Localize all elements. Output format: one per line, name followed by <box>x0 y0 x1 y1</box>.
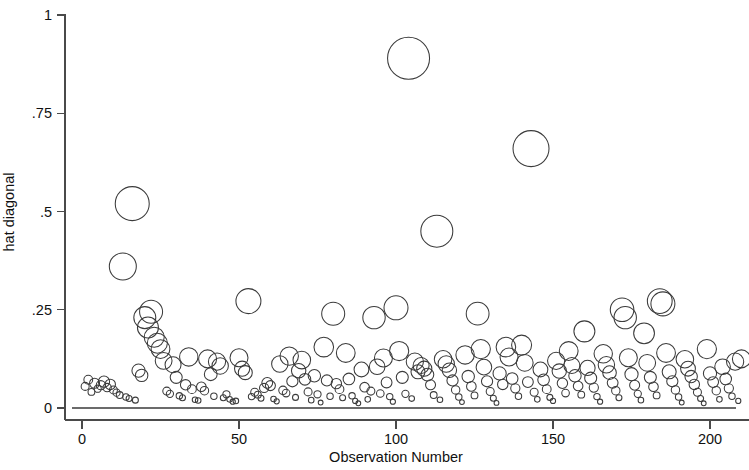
x-tick-label: 0 <box>78 431 86 447</box>
x-tick-label: 50 <box>231 431 247 447</box>
x-axis-title: Observation Number <box>329 449 463 465</box>
y-tick-label: .75 <box>32 105 52 121</box>
x-tick-label: 100 <box>384 431 408 447</box>
y-tick-label: .5 <box>40 204 52 220</box>
x-tick-label: 150 <box>541 431 565 447</box>
chart-background <box>0 0 749 470</box>
x-tick-label: 200 <box>698 431 722 447</box>
hat-diagonal-scatter-chart: 0.25.5.751 050100150200 Observation Numb… <box>0 0 749 470</box>
y-axis-title: hat diagonal <box>1 172 17 251</box>
y-tick-label: 0 <box>44 400 52 416</box>
y-tick-label: .25 <box>32 302 52 318</box>
y-tick-label: 1 <box>44 7 52 23</box>
plot-canvas: 0.25.5.751 050100150200 Observation Numb… <box>0 0 749 470</box>
